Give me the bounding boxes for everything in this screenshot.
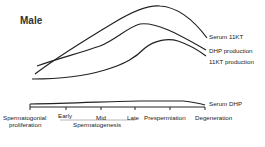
stage-degeneration: Degeneration [195,115,232,121]
stage-prespermiation: Prespermiation [144,115,186,121]
label-dhp-production: DHP production [209,48,253,54]
label-serum-11kt: Serum 11KT [209,34,243,40]
stage-late: Late [127,115,139,121]
label-11kt-production: 11KT production [209,59,254,65]
stage-early: Early [58,113,72,119]
stage-proliferation: proliferation [9,122,41,128]
group-spermatogenesis: Spermatogenesis [73,122,121,128]
label-serum-dhp: Serum DHP [209,101,242,107]
curve-serum-dhp [30,101,205,105]
curve-dhp-production [37,24,206,66]
